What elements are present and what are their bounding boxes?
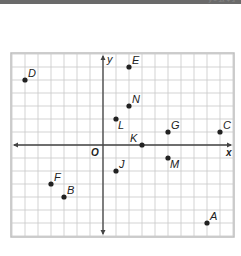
point-f <box>48 181 53 186</box>
point-label-m: M <box>170 158 180 170</box>
point-d <box>22 77 27 82</box>
point-label-j: J <box>118 158 125 170</box>
point-label-k: K <box>130 132 138 144</box>
point-label-c: C <box>223 119 231 131</box>
point-k <box>139 142 144 147</box>
point-label-b: B <box>67 184 74 196</box>
coordinate-grid: xyODENLGCKMJFBA <box>0 0 241 256</box>
point-n <box>126 103 131 108</box>
point-e <box>126 64 131 69</box>
point-label-n: N <box>132 93 140 105</box>
point-g <box>165 129 170 134</box>
point-label-a: A <box>209 210 217 222</box>
point-label-e: E <box>132 54 140 66</box>
x-axis-label: x <box>225 147 232 158</box>
point-label-g: G <box>171 119 180 131</box>
point-label-l: L <box>118 119 124 131</box>
point-b <box>61 194 66 199</box>
point-a <box>204 220 209 225</box>
origin-label: O <box>91 147 99 158</box>
point-j <box>113 168 118 173</box>
point-c <box>217 129 222 134</box>
point-label-d: D <box>28 67 36 79</box>
